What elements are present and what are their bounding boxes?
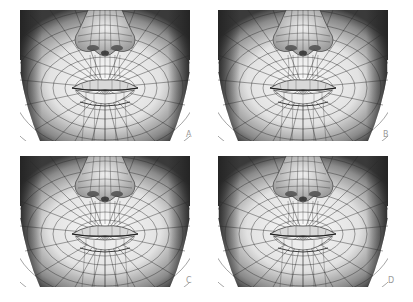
panel-label-a: A (186, 131, 191, 139)
panel-label-d: D (388, 277, 394, 285)
wireframe-face-image (20, 10, 190, 141)
panel-label-c: C (186, 277, 192, 285)
panel-d (218, 156, 388, 287)
panel-c (20, 156, 190, 287)
panel-b (218, 10, 388, 141)
panel-label-b: B (383, 131, 389, 139)
wireframe-face-image (218, 10, 388, 141)
panel-a (20, 10, 190, 141)
wireframe-face-image (20, 156, 190, 287)
wireframe-face-image (218, 156, 388, 287)
